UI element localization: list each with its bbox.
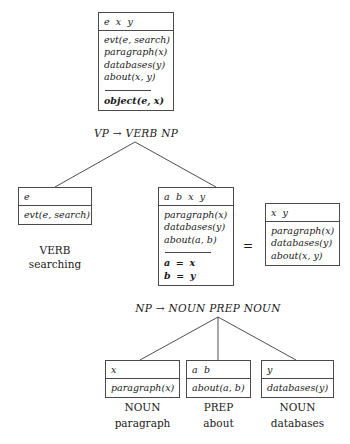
drs-header-np-reduced: x y — [266, 204, 339, 222]
drs-header-noun-left: x — [106, 361, 179, 379]
drs-condition: about(x, y) — [104, 71, 169, 83]
drs-condition: evt(e, search) — [104, 34, 169, 46]
drs-header-np: a b x y — [159, 188, 233, 206]
drs-divider — [165, 252, 211, 253]
drs-derived-condition: a = x — [164, 257, 229, 269]
drs-condition: about(a, b) — [192, 382, 246, 394]
drs-derived-condition: b = y — [164, 270, 229, 282]
drs-condition: paragraph(x) — [111, 382, 175, 394]
drs-divider — [105, 90, 151, 91]
edge-vp-verb — [55, 142, 135, 187]
drs-condition: databases(y) — [271, 237, 335, 249]
edge-np-noun-left — [140, 317, 218, 360]
drs-condition: databases(y) — [104, 59, 169, 71]
drs-header-prep: a b — [187, 361, 250, 379]
category-label-noun-left: NOUN — [105, 401, 180, 413]
edge-np-noun-right — [218, 317, 296, 360]
edge-vp-np — [135, 142, 216, 187]
drs-body-vp: evt(e, search) paragraph(x) databases(y)… — [99, 31, 173, 110]
drs-condition: about(a, b) — [164, 234, 229, 246]
drs-body-prep: about(a, b) — [187, 379, 250, 397]
drs-condition: databases(y) — [267, 382, 329, 394]
equals-sign: = — [243, 240, 253, 252]
word-label-noun-left: paragraph — [105, 417, 180, 429]
drs-condition: paragraph(x) — [164, 209, 229, 221]
drs-header-noun-right: y — [262, 361, 333, 379]
drs-condition: paragraph(x) — [104, 46, 169, 58]
drs-body-np-reduced: paragraph(x) databases(y) about(x, y) — [266, 222, 339, 265]
drs-derived-condition: object(e, x) — [104, 95, 169, 107]
drs-body-noun-right: databases(y) — [262, 379, 333, 397]
figure-canvas: e x y evt(e, search) paragraph(x) databa… — [0, 0, 350, 444]
drs-body-verb: evt(e, search) — [19, 206, 91, 224]
rule-label-vp: VP → VERB NP — [69, 127, 203, 139]
drs-header-vp: e x y — [99, 13, 173, 31]
drs-box-prep: a b about(a, b) — [186, 360, 251, 398]
drs-box-vp: e x y evt(e, search) paragraph(x) databa… — [98, 12, 174, 111]
word-label-noun-right: databases — [261, 417, 334, 429]
drs-body-np: paragraph(x) databases(y) about(a, b) a … — [159, 206, 233, 285]
drs-box-np-reduced: x y paragraph(x) databases(y) about(x, y… — [265, 203, 340, 266]
drs-header-verb: e — [19, 188, 91, 206]
rule-label-np: NP → NOUN PREP NOUN — [118, 302, 298, 314]
drs-box-np: a b x y paragraph(x) databases(y) about(… — [158, 187, 234, 286]
drs-condition: evt(e, search) — [24, 209, 87, 221]
word-label-verb: searching — [18, 258, 92, 270]
drs-condition: databases(y) — [164, 221, 229, 233]
drs-body-noun-left: paragraph(x) — [106, 379, 179, 397]
drs-box-noun-left: x paragraph(x) — [105, 360, 180, 398]
category-label-prep: PREP — [186, 401, 251, 413]
category-label-noun-right: NOUN — [261, 401, 334, 413]
word-label-prep: about — [186, 417, 251, 429]
drs-box-noun-right: y databases(y) — [261, 360, 334, 398]
drs-box-verb: e evt(e, search) — [18, 187, 92, 225]
category-label-verb: VERB — [18, 244, 92, 256]
drs-condition: about(x, y) — [271, 250, 335, 262]
drs-condition: paragraph(x) — [271, 225, 335, 237]
